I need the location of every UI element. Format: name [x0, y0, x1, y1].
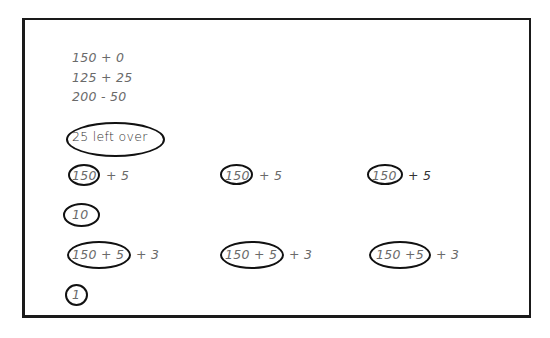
r2c3-circled: 150 +5 — [376, 249, 424, 262]
r2c2-circled: 150 + 5 — [225, 249, 277, 262]
r2c1-rest: + 3 — [136, 249, 159, 262]
equation-1: 150 + 0 — [72, 52, 124, 65]
answer-2: 1 — [72, 289, 80, 302]
r1c2-circled: 150 — [225, 170, 250, 183]
r2c2-rest: + 3 — [289, 249, 312, 262]
r1c1-rest: + 5 — [106, 170, 129, 183]
equation-3: 200 - 50 — [72, 91, 127, 104]
r1c3-rest: + 5 — [408, 170, 431, 183]
r2c3-rest: + 3 — [436, 249, 459, 262]
equation-2: 125 + 25 — [72, 72, 133, 85]
r1c2-rest: + 5 — [259, 170, 282, 183]
answer-1: 10 — [72, 209, 89, 222]
leftover-note: 25 left over — [72, 131, 148, 144]
r1c3-circled: 150 — [372, 170, 397, 183]
r2c1-circled: 150 + 5 — [72, 249, 124, 262]
r1c1-circled: 150 — [72, 170, 97, 183]
